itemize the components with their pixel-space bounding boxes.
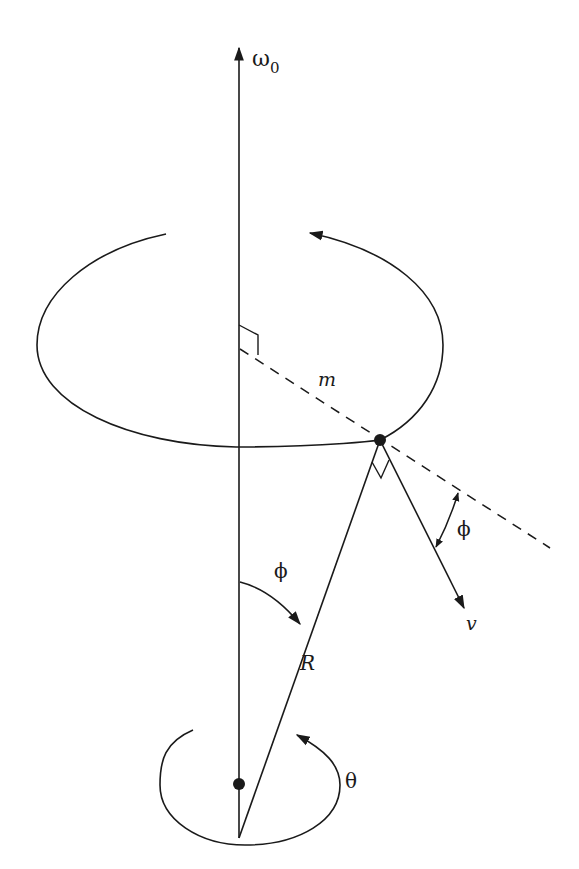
velocity-label: v [466,612,477,634]
mass-right-angle-marker [372,460,389,478]
phi-angle-arc-axis [240,582,300,624]
origin-point [233,778,245,790]
radius-line [239,440,380,838]
mass-label: m [318,368,336,390]
orbit-ellipse [37,233,443,447]
theta-rotation-arc [160,730,340,845]
velocity-vector [380,440,464,608]
mass-point [374,434,386,446]
radial-dashed-line [240,349,550,548]
omega-label: ω0 [252,46,280,77]
rotating-mass-diagram: ω0 m ϕ ϕ R v θ [0,0,579,869]
phi-side-label: ϕ [457,517,471,541]
radius-label: R [299,651,315,675]
phi-angle-arc-side [436,493,458,547]
phi-axis-label: ϕ [274,559,288,583]
theta-label: θ [345,769,357,793]
